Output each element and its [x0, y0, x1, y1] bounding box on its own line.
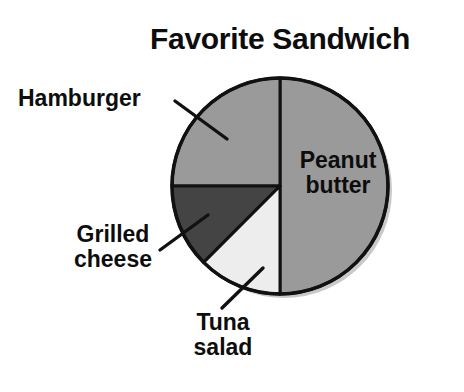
slice-label-tuna-salad-line2: salad [168, 335, 278, 360]
slice-label-hamburger: Hamburger [18, 86, 141, 111]
slice-label-tuna-salad: Tuna salad [168, 310, 278, 360]
slice-label-peanut-butter-line1: Peanut [292, 148, 384, 173]
slice-label-tuna-salad-line1: Tuna [168, 310, 278, 335]
slice-label-peanut-butter-line2: butter [292, 173, 384, 198]
slice-label-grilled-cheese: Grilled cheese [48, 222, 178, 272]
slice-label-grilled-cheese-line2: cheese [48, 247, 178, 272]
slice-label-grilled-cheese-line1: Grilled [48, 222, 178, 247]
slice-label-peanut-butter: Peanut butter [292, 148, 384, 199]
pie-chart-figure: Favorite Sandwich Hamburger Grilled chee… [0, 0, 464, 392]
slice-label-hamburger-line1: Hamburger [18, 86, 141, 111]
